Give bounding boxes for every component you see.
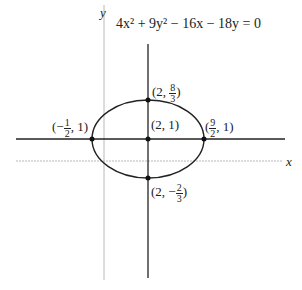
center-point-label: (2, 1) [151, 118, 179, 131]
bottom-vertex [146, 176, 151, 181]
equation: 4x² + 9y² − 16x − 18y = 0 [116, 17, 261, 31]
top-vertex [146, 98, 151, 103]
top-point-label: (2, 83) [152, 83, 181, 104]
left-vertex [90, 137, 95, 142]
right-point-label: (92, 1) [205, 118, 234, 139]
center-point [146, 137, 151, 142]
y-axis-label: y [100, 6, 106, 19]
x-axis-label: x [286, 155, 292, 168]
bottom-point-label: (2, −23) [151, 183, 187, 204]
left-point-label: (−12, 1) [52, 118, 88, 139]
ellipse-diagram [0, 0, 302, 290]
